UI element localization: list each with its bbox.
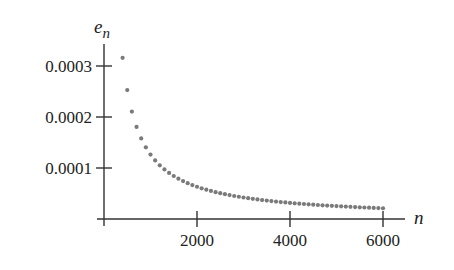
y-tick-label: 0.0003 — [45, 57, 92, 76]
data-point — [311, 203, 315, 207]
y-tick-label: 0.0002 — [45, 108, 92, 127]
y-tick-label: 0.0001 — [45, 159, 92, 178]
data-point — [251, 197, 255, 201]
data-point — [176, 177, 180, 181]
data-point — [269, 199, 273, 203]
data-point — [307, 202, 311, 206]
data-point — [367, 206, 371, 210]
data-point — [134, 125, 138, 129]
data-point — [148, 152, 152, 156]
data-point — [125, 88, 129, 92]
data-point — [223, 192, 227, 196]
data-point — [186, 181, 190, 185]
x-tick-label: 4000 — [273, 231, 307, 250]
data-point — [204, 188, 208, 192]
data-point — [339, 204, 343, 208]
data-point — [274, 199, 278, 203]
data-point — [316, 203, 320, 207]
data-point — [144, 145, 148, 149]
data-point — [232, 194, 236, 198]
data-point — [167, 171, 171, 175]
data-point — [153, 158, 157, 162]
data-point — [218, 191, 222, 195]
data-point — [237, 195, 241, 199]
scatter-chart: 0.00010.00020.0003 200040006000 en n — [0, 0, 454, 270]
data-point — [325, 203, 329, 207]
x-axis-title: n — [414, 207, 424, 228]
x-tick-label: 2000 — [180, 231, 214, 250]
data-point — [320, 203, 324, 207]
data-point — [302, 202, 306, 206]
data-point — [181, 179, 185, 183]
data-point — [227, 193, 231, 197]
data-point — [260, 198, 264, 202]
data-point — [162, 167, 166, 171]
x-ticks: 200040006000 — [180, 211, 400, 250]
data-point — [293, 201, 297, 205]
y-ticks: 0.00010.00020.0003 — [45, 57, 112, 178]
data-point — [158, 163, 162, 167]
data-point — [241, 195, 245, 199]
data-point — [297, 202, 301, 206]
data-point — [283, 200, 287, 204]
data-point — [172, 174, 176, 178]
data-point — [381, 206, 385, 210]
data-point — [200, 186, 204, 190]
y-axis-title: en — [94, 16, 110, 41]
data-point — [372, 206, 376, 210]
data-point — [348, 205, 352, 209]
data-point — [246, 196, 250, 200]
data-point — [121, 56, 125, 60]
data-point — [288, 201, 292, 205]
data-point — [353, 205, 357, 209]
data-point — [209, 189, 213, 193]
data-points — [121, 56, 386, 211]
data-point — [130, 109, 134, 113]
data-point — [344, 205, 348, 209]
x-tick-label: 6000 — [366, 231, 400, 250]
data-point — [190, 183, 194, 187]
data-point — [330, 204, 334, 208]
data-point — [334, 204, 338, 208]
data-point — [358, 205, 362, 209]
data-point — [376, 206, 380, 210]
data-point — [195, 185, 199, 189]
data-point — [139, 136, 143, 140]
data-point — [214, 190, 218, 194]
data-point — [279, 200, 283, 204]
data-point — [265, 198, 269, 202]
data-point — [255, 197, 259, 201]
data-point — [362, 205, 366, 209]
